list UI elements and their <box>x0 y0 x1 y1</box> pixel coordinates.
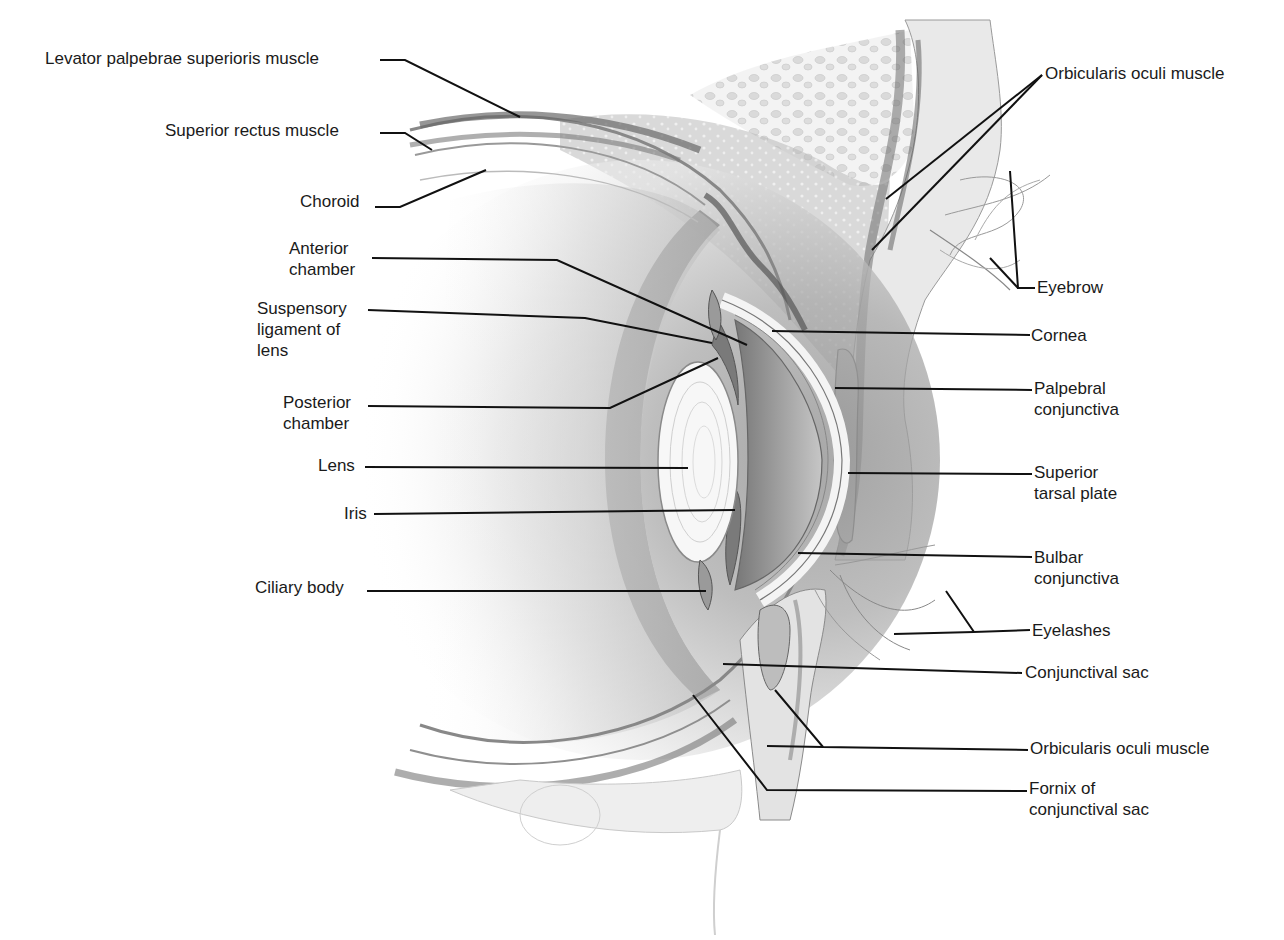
label-orbicularis-oculi-muscle-upper: Orbicularis oculi muscle <box>1045 63 1225 84</box>
label-suspensory-ligament-of-lens: Suspensory ligament of lens <box>257 298 347 361</box>
leader-line-eyebrow <box>1010 171 1035 288</box>
label-superior-rectus-muscle: Superior rectus muscle <box>165 120 339 141</box>
label-cornea: Cornea <box>1031 325 1087 346</box>
label-iris: Iris <box>344 503 367 524</box>
label-eyelashes: Eyelashes <box>1032 620 1110 641</box>
label-ciliary-body: Ciliary body <box>255 577 344 598</box>
label-lens: Lens <box>318 455 355 476</box>
leader-line-eyelashes <box>946 591 1030 632</box>
label-conjunctival-sac: Conjunctival sac <box>1025 662 1149 683</box>
leader-line-eyelashes <box>894 632 974 634</box>
leader-line-superior-tarsal-plate <box>848 473 1032 474</box>
label-choroid: Choroid <box>300 191 360 212</box>
label-bulbar-conjunctiva: Bulbar conjunctiva <box>1034 547 1119 589</box>
label-posterior-chamber: Posterior chamber <box>283 392 351 434</box>
label-superior-tarsal-plate: Superior tarsal plate <box>1034 462 1117 504</box>
label-fornix-of-conjunctival-sac: Fornix of conjunctival sac <box>1029 778 1149 820</box>
leader-line-orbicularis-oculi-lower <box>767 746 823 747</box>
label-anterior-chamber: Anterior chamber <box>289 238 355 280</box>
label-eyebrow: Eyebrow <box>1037 277 1103 298</box>
label-levator-palpebrae-superioris-muscle: Levator palpebrae superioris muscle <box>45 48 319 69</box>
leader-line-lens <box>365 467 688 468</box>
label-orbicularis-oculi-muscle-lower: Orbicularis oculi muscle <box>1030 738 1210 759</box>
label-palpebral-conjunctiva: Palpebral conjunctiva <box>1034 378 1119 420</box>
leader-line-levator <box>380 60 520 117</box>
